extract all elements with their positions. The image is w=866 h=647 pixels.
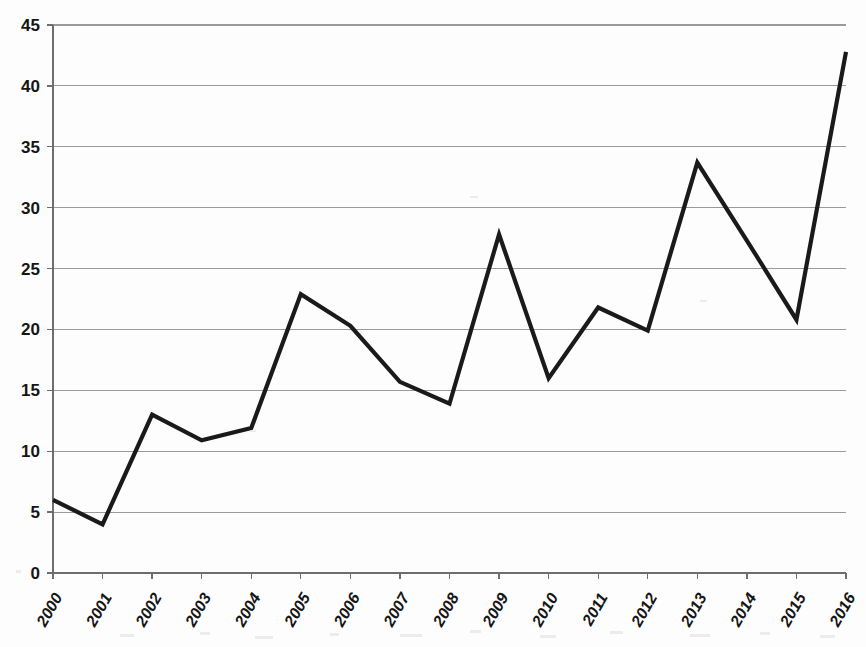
scan-speck: [330, 633, 339, 636]
y-tick-label: 10: [21, 442, 40, 461]
scan-speck: [200, 632, 210, 635]
scan-speck: [540, 635, 556, 638]
y-tick-label: 5: [31, 503, 40, 522]
y-tick-label: 35: [21, 138, 40, 157]
scan-speck: [820, 635, 835, 638]
scan-speck: [16, 570, 21, 573]
y-tick-label: 0: [31, 564, 40, 583]
scan-speck: [120, 634, 134, 637]
scan-speck: [400, 634, 422, 637]
scan-speck: [690, 634, 710, 637]
y-tick-label: 45: [21, 16, 40, 35]
y-tick-label: 15: [21, 381, 40, 400]
scan-speck: [470, 630, 481, 633]
scan-speck: [610, 631, 623, 634]
scan-speck: [255, 636, 273, 639]
chart-canvas: 051015202530354045 200020012002200320042…: [0, 0, 866, 647]
line-chart: 051015202530354045 200020012002200320042…: [0, 0, 866, 647]
y-tick-label: 40: [21, 77, 40, 96]
y-tick-label: 20: [21, 320, 40, 339]
y-tick-label: 25: [21, 260, 40, 279]
plot-background: [0, 0, 866, 647]
scan-speck: [250, 430, 256, 432]
scan-speck: [470, 196, 478, 198]
y-tick-label: 30: [21, 199, 40, 218]
scan-speck: [760, 632, 770, 635]
scan-speck: [700, 300, 707, 302]
